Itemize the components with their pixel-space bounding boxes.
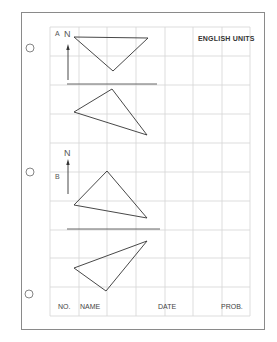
north-label-b: N: [64, 149, 71, 158]
section-a-label: A: [55, 30, 60, 37]
worksheet-drawing: [0, 0, 277, 342]
punch-holes: [25, 44, 34, 298]
footer-no-label: NO.: [58, 303, 70, 310]
north-arrow-icon: [66, 159, 69, 165]
punch-hole-icon: [26, 44, 34, 52]
footer-date-label: DATE: [158, 303, 176, 310]
punch-hole-icon: [26, 168, 34, 176]
section-a: [66, 37, 157, 135]
section-b-label: B: [55, 173, 60, 180]
punch-hole-icon: [25, 290, 33, 298]
north-label-a: N: [64, 30, 71, 39]
footer-name-label: NAME: [80, 303, 100, 310]
triangle-a1: [74, 37, 148, 71]
section-b: [66, 159, 160, 291]
units-label: ENGLISH UNITS: [198, 35, 255, 42]
footer-prob-label: PROB.: [221, 303, 243, 310]
north-arrow-icon: [66, 44, 69, 50]
